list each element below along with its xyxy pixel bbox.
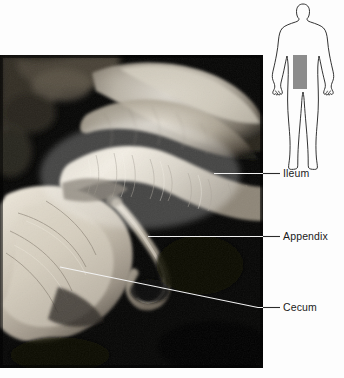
label-cecum: Cecum	[283, 302, 317, 313]
dissection-photo	[0, 55, 263, 368]
label-appendix: Appendix	[283, 231, 328, 242]
body-orientation-diagram	[262, 2, 344, 172]
anatomy-figure: Ileum Appendix Cecum	[0, 0, 344, 378]
specimen-image	[0, 55, 263, 368]
region-highlight	[293, 55, 307, 89]
label-ileum: Ileum	[283, 168, 309, 179]
